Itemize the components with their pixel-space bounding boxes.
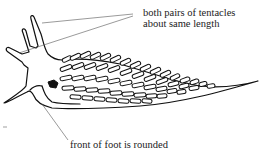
foot-annotation-line-1: front of foot is rounded bbox=[70, 139, 168, 150]
tentacles-annotation-line-1: both pairs of tentacles bbox=[143, 7, 235, 18]
scan-speck bbox=[3, 126, 7, 128]
cerata bbox=[60, 51, 216, 104]
tentacles-annotation: both pairs of tentacles about same lengt… bbox=[143, 7, 235, 29]
dark-patch bbox=[48, 80, 58, 88]
diagram: both pairs of tentacles about same lengt… bbox=[0, 0, 260, 156]
tentacles-annotation-line-2: about same length bbox=[143, 18, 235, 29]
foot-annotation: front of foot is rounded bbox=[70, 139, 168, 150]
